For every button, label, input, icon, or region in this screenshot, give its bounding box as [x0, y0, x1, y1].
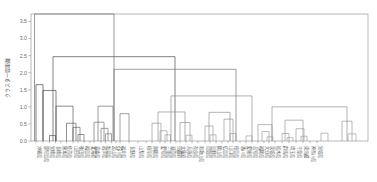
leaf-label: 高知県	[252, 146, 259, 158]
leaf-label: 栃木県	[275, 146, 282, 158]
leaf-label: 滋賀県	[170, 146, 177, 158]
leaf-label: 長崎県	[55, 146, 62, 158]
leaf-label: 鳥取県	[205, 146, 212, 158]
leaf-label: 大阪府	[180, 146, 187, 158]
leaf-label: 神奈川県	[310, 146, 317, 162]
dendrogram-link	[94, 122, 104, 141]
leaf-label: 広島県	[222, 146, 229, 158]
leaf-label: 岡山県	[216, 146, 223, 158]
dendrogram-figure: 0.00.51.01.52.02.53.03.5 クラスター間距離 沖縄県鹿児島…	[0, 0, 377, 182]
dendrogram-link	[258, 125, 272, 141]
dendrogram-link	[106, 134, 112, 141]
leaf-label: 愛知県	[160, 146, 167, 158]
dendrogram-link	[209, 112, 230, 141]
y-axis-title: クラスター間距離	[4, 58, 11, 98]
leaf-label: 宮崎県	[49, 146, 56, 158]
leaf-label: 秋田県	[78, 146, 85, 158]
leaf-label: 香川県	[240, 146, 247, 158]
dendrogram-link	[78, 135, 84, 141]
leaf-label: 熊本県	[61, 146, 68, 158]
leaf-label: 山梨県	[138, 146, 145, 158]
leaf-label: 沖縄県	[36, 146, 43, 158]
y-tick-label: 3.0	[20, 35, 27, 41]
leaf-label: 山口県	[228, 146, 235, 158]
y-tick-label: 1.5	[20, 87, 27, 93]
leaf-label: 東京都	[303, 146, 310, 159]
leaf-label: 和歌山県	[198, 146, 205, 162]
y-tick-label: 2.5	[20, 53, 27, 59]
dendrogram-link	[224, 119, 233, 141]
leaf-label: 静岡県	[152, 146, 159, 158]
y-tick-label: 0.0	[20, 138, 27, 144]
dendrogram-link	[43, 90, 56, 141]
dendrogram-link	[171, 96, 252, 141]
dendrogram-link	[152, 123, 161, 141]
dendrogram-link	[321, 133, 328, 141]
dendrogram-link	[120, 114, 129, 141]
dendrogram-link	[165, 135, 171, 141]
leaf-label: 青森県	[94, 146, 101, 158]
y-tick-label: 2.0	[20, 70, 27, 76]
leaf-label: 奈良県	[192, 146, 199, 158]
leaf-label: 福井県	[120, 146, 127, 158]
plot-frame	[31, 14, 368, 141]
dendrogram-link	[56, 106, 73, 141]
dendrogram-link	[246, 136, 252, 141]
dendrogram-link	[287, 138, 293, 141]
leaf-label: 新潟県	[105, 146, 112, 158]
dendrogram-link	[282, 133, 289, 141]
leaf-label: 茨城県	[269, 146, 276, 158]
leaf-label: 福岡県	[258, 146, 265, 158]
dendrogram-link	[73, 127, 80, 141]
leaf-label: 大分県	[264, 146, 271, 158]
dendrogram-link	[101, 128, 108, 141]
dendrogram-link	[158, 112, 185, 141]
dendrogram-plot: 0.00.51.01.52.02.53.03.5 クラスター間距離 沖縄県鹿児島…	[0, 0, 377, 182]
leaf-label: 群馬県	[282, 146, 289, 158]
leaf-labels: 沖縄県鹿児島県宮崎県長崎県熊本県佐賀県山形県秋田県福島県北海道青森県岩手県新潟県…	[36, 146, 324, 162]
y-tick-label: 3.5	[20, 18, 27, 24]
leaf-label: 千葉県	[296, 146, 303, 158]
dendrogram-link	[36, 85, 43, 141]
leaf-label: 長野県	[129, 146, 136, 158]
dendrogram-link	[67, 123, 77, 141]
leaf-label: 島根県	[210, 146, 217, 158]
leaf-label: 佐賀県	[66, 146, 73, 158]
dendrogram-link	[272, 107, 347, 141]
leaf-label: 愛媛県	[246, 146, 253, 158]
dendrogram-links	[35, 14, 357, 141]
leaf-label: 兵庫県	[186, 146, 193, 158]
y-tick-label: 1.0	[20, 104, 27, 110]
leaf-label: 岐阜県	[146, 146, 153, 158]
leaf-label: 三重県	[165, 146, 172, 158]
dendrogram-link	[262, 131, 269, 141]
y-tick-label: 0.5	[20, 121, 27, 127]
leaf-label: 埼玉県	[289, 146, 296, 158]
dendrogram-link	[50, 136, 56, 141]
y-axis: 0.00.51.01.52.02.53.03.5	[20, 18, 31, 143]
leaf-label: 宮城県	[317, 146, 324, 158]
leaf-label: 徳島県	[233, 146, 240, 158]
leaf-label: 福島県	[84, 146, 91, 158]
dendrogram-link	[186, 135, 192, 141]
leaf-label: 鹿児島県	[43, 146, 50, 162]
leaf-label: 山形県	[73, 146, 80, 158]
